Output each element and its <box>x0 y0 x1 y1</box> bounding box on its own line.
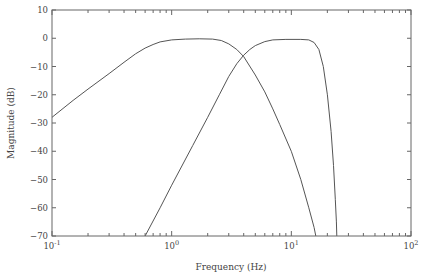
y-tick-label: 10 <box>37 5 48 15</box>
y-tick-label: −70 <box>30 231 48 241</box>
y-tick-label: 0 <box>43 33 48 43</box>
y-tick-label: −10 <box>30 62 48 72</box>
y-tick-label: −20 <box>30 90 48 100</box>
y-tick-label: −60 <box>30 203 48 213</box>
y-tick-label: −50 <box>30 175 48 185</box>
x-axis-ticks: 10-1100101102 <box>43 10 418 251</box>
plot-frame <box>52 10 411 236</box>
y-axis-title: Magnitude (dB) <box>6 87 16 159</box>
plot-area <box>52 39 337 236</box>
x-tick-label: 100 <box>164 239 179 251</box>
series-line-1 <box>52 39 316 236</box>
x-axis-title: Frequency (Hz) <box>195 262 266 272</box>
x-tick-label: 102 <box>404 239 419 251</box>
magnitude-response-chart: 10-1100101102 100−10−20−30−40−50−60−70 F… <box>0 0 423 276</box>
x-tick-label: 101 <box>284 239 299 251</box>
y-tick-label: −40 <box>30 146 48 156</box>
y-tick-label: −30 <box>30 118 48 128</box>
